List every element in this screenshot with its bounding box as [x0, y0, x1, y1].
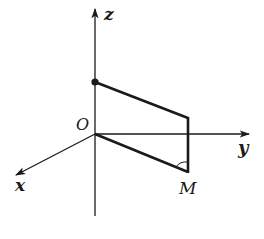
coordinate-diagram: z O y x M: [0, 0, 264, 239]
y-axis-label: y: [238, 139, 248, 157]
x-axis: [16, 134, 95, 175]
edge-top: [95, 82, 188, 118]
angle-mark: [176, 162, 188, 167]
edge-bottom: [95, 134, 188, 172]
diagram-svg: [0, 0, 264, 239]
z-axis-label: z: [104, 6, 114, 23]
origin-label: O: [76, 117, 89, 133]
point-m-label: M: [179, 180, 196, 197]
x-axis-label: x: [15, 177, 25, 194]
z-point-dot: [91, 78, 98, 85]
